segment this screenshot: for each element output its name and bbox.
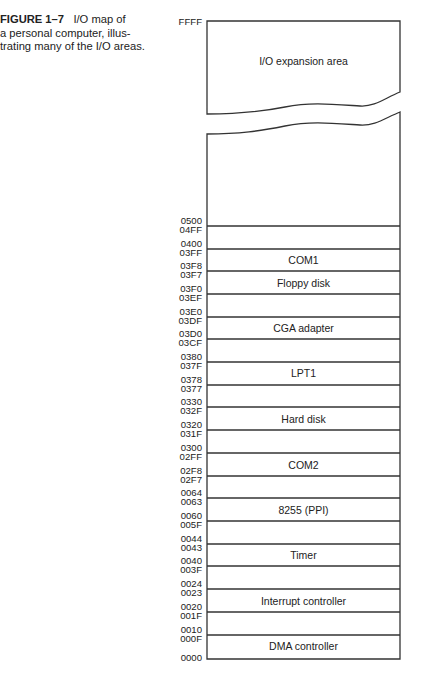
address-lower: 03FF: [162, 248, 202, 257]
region-floppy-disk: Floppy disk: [207, 277, 400, 289]
region-hard-disk: Hard disk: [207, 413, 400, 425]
address-lower: 02F7: [162, 475, 202, 484]
region-cga-adapter: CGA adapter: [207, 322, 400, 334]
address-lower: 04FF: [162, 225, 202, 234]
region-lpt1: LPT1: [207, 367, 400, 379]
io-map-frame: [0, 0, 429, 687]
address-lower: 037F: [162, 361, 202, 370]
address-lower: 000F: [162, 634, 202, 643]
region-interrupt-controller: Interrupt controller: [207, 595, 400, 607]
address-bottom: 0000: [162, 653, 202, 662]
address-lower: 0043: [162, 543, 202, 552]
region-dma-controller: DMA controller: [207, 640, 400, 652]
address-lower: 03F7: [162, 270, 202, 279]
address-lower: 0377: [162, 384, 202, 393]
address-lower: 03CF: [162, 338, 202, 347]
region-8255-ppi: 8255 (PPI): [207, 504, 400, 516]
address-lower: 03EF: [162, 293, 202, 302]
address-lower: 031F: [162, 429, 202, 438]
address-lower: 0063: [162, 497, 202, 506]
address-lower: 03DF: [162, 316, 202, 325]
io-map-diagram: FFFF 0000 0500 04FF 0400 03FF 03F8 03F7 …: [0, 0, 429, 687]
region-io-expansion: I/O expansion area: [207, 55, 400, 67]
region-timer: Timer: [207, 549, 400, 561]
address-lower: 005F: [162, 520, 202, 529]
region-com1: COM1: [207, 254, 400, 266]
region-com2: COM2: [207, 459, 400, 471]
address-lower: 003F: [162, 565, 202, 574]
address-top: FFFF: [162, 17, 202, 26]
address-lower: 032F: [162, 406, 202, 415]
address-lower: 0023: [162, 588, 202, 597]
address-lower: 02FF: [162, 452, 202, 461]
address-lower: 001F: [162, 611, 202, 620]
